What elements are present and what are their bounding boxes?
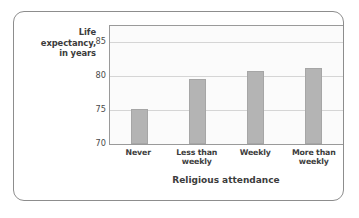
bar-less-than-weekly[interactable] [189, 79, 206, 144]
bar-slot-weekly [227, 26, 285, 144]
x-axis-tick-labels: Never Less than weekly Weekly More than … [109, 148, 343, 167]
x-tick-label-less-than-weekly: Less than weekly [168, 148, 227, 167]
x-tick-weekly-line-1: Weekly [226, 148, 285, 157]
x-axis-title: Religious attendance [109, 175, 343, 185]
y-tick-label-85: 85 [84, 37, 106, 46]
y-axis-tick-labels: 85 80 75 70 [82, 25, 106, 145]
x-tick-never-line-1: Never [109, 148, 168, 157]
x-tick-label-weekly: Weekly [226, 148, 285, 167]
x-tick-more-line-1: More than [285, 148, 344, 157]
chart-figure: Life expectancy, in years 85 80 75 70 [0, 0, 359, 218]
x-tick-label-more-than-weekly: More than weekly [285, 148, 344, 167]
x-tick-less-line-1: Less than [168, 148, 227, 157]
x-tick-less-line-2: weekly [168, 157, 227, 166]
x-tick-label-never: Never [109, 148, 168, 167]
y-tick-label-75: 75 [84, 105, 106, 114]
bar-weekly[interactable] [247, 71, 264, 144]
plot-area [109, 25, 343, 145]
bar-slot-more-than-weekly [285, 26, 343, 144]
x-tick-more-line-2: weekly [285, 157, 344, 166]
bar-never[interactable] [131, 109, 148, 144]
bar-slot-less-than-weekly [168, 26, 226, 144]
y-tick-label-80: 80 [84, 71, 106, 80]
y-tick-label-70: 70 [84, 139, 106, 148]
bar-slot-never [110, 26, 168, 144]
bar-more-than-weekly[interactable] [305, 68, 322, 144]
bars-layer [110, 26, 343, 144]
